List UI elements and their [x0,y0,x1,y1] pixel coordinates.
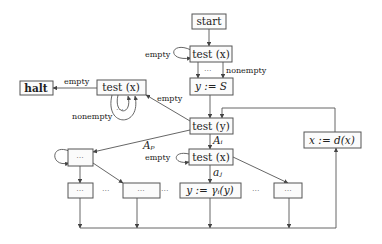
label-a-i: Aᵢ [212,134,223,146]
node-test-x-left-label: test (x) [102,81,140,93]
flowchart: start test (x) y := S test (y) halt test… [0,0,382,244]
node-halt-label: halt [24,82,47,94]
label-empty-to-halt: empty [64,77,90,86]
row-dots-1: ··· [102,186,110,195]
node-test-x-mid-label: test (x) [192,151,230,163]
label-empty-top: empty [145,50,171,59]
label-nonempty-top: nonempty [226,66,267,75]
node-assign-y-s: y := S [190,78,233,95]
node-assign-y-s-label: y := S [194,80,227,92]
node-assign-x-dx-label: x := d(x) [309,134,355,146]
label-a-p: Aₚ [142,139,155,151]
edge-labels: empty ··· nonempty empty empty nonempty … [64,50,267,195]
node-assign-x-dx: x := d(x) [304,132,361,148]
node-test-x-left: test (x) [97,80,146,95]
label-a-j: aⱼ [213,166,222,178]
label-dots-top: ··· [204,66,212,75]
node-ellipsis-left: ··· [68,149,93,166]
node-start-label: start [196,15,222,27]
node-assign-y-gamma: y := γᵢ(y) [180,183,241,198]
node-row-box-4: ··· [274,183,302,198]
label-empty-to-left: empty [157,94,183,103]
row-dots-3: ··· [252,186,260,195]
node-test-x-top-label: test (x) [192,48,230,60]
node-start: start [192,14,226,29]
node-row-box-4-label: ··· [284,186,292,195]
node-assign-y-gamma-label: y := γᵢ(y) [185,184,233,196]
node-test-x-mid: test (x) [189,149,233,165]
label-empty-mid: empty [145,153,171,162]
node-halt: halt [20,81,53,95]
node-row-box-2: ··· [123,183,160,198]
node-test-x-top: test (x) [190,46,232,62]
label-nonempty-left: nonempty [72,112,113,121]
node-ellipsis-left-label: ··· [76,153,84,162]
label-dots-left: ··· [116,105,124,114]
row-dots-2: ··· [161,186,169,195]
node-test-y-label: test (y) [192,120,230,132]
node-row-box-1: ··· [68,183,93,198]
node-row-box-1-label: ··· [76,186,84,195]
node-row-box-2-label: ··· [137,186,145,195]
node-test-y: test (y) [190,118,233,134]
